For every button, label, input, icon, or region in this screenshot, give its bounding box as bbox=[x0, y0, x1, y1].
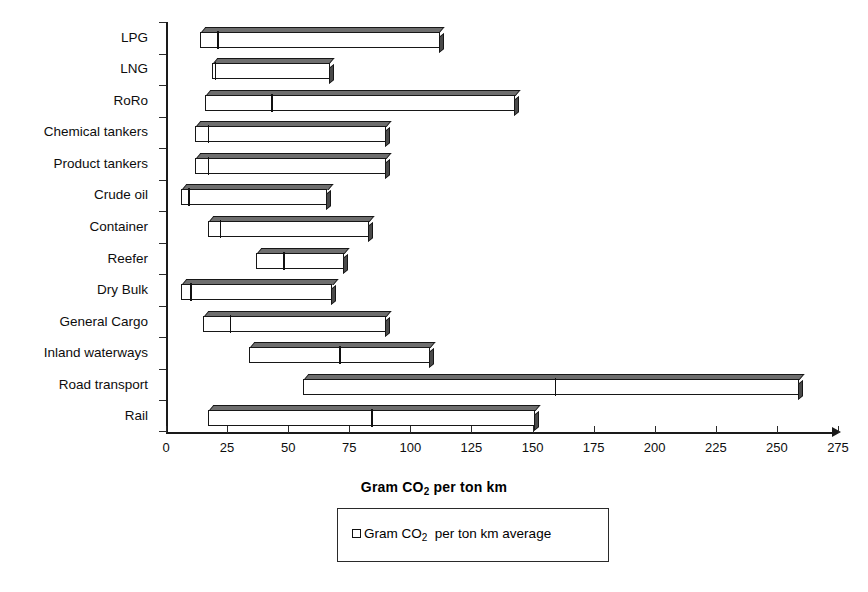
y-axis-tick bbox=[159, 306, 166, 307]
y-axis-tick bbox=[159, 148, 166, 149]
y-axis-category-label: LNG bbox=[120, 61, 148, 76]
range-bar bbox=[181, 279, 333, 301]
x-axis-arrow-icon bbox=[832, 427, 841, 437]
y-axis-tick bbox=[159, 274, 166, 275]
range-bar-average-marker bbox=[283, 252, 285, 270]
x-axis-tick-label: 275 bbox=[818, 440, 858, 455]
legend: Gram CO2 per ton km average bbox=[337, 508, 609, 562]
range-bar-front-face bbox=[200, 32, 439, 48]
range-bar-average-marker bbox=[339, 346, 341, 364]
range-bar-average-marker bbox=[208, 157, 210, 175]
legend-item: Gram CO2 per ton km average bbox=[352, 526, 551, 541]
range-bar-front-face bbox=[303, 379, 799, 395]
range-bar-front-face bbox=[195, 126, 386, 142]
range-bar bbox=[256, 248, 344, 270]
range-bar bbox=[195, 121, 386, 143]
range-bar-average-marker bbox=[230, 315, 232, 333]
x-axis-tick-label: 125 bbox=[451, 440, 491, 455]
range-bar-average-marker bbox=[215, 62, 217, 80]
y-axis-tick bbox=[159, 211, 166, 212]
range-bar-average-marker bbox=[555, 378, 557, 396]
y-axis-category-labels: LPGLNGRoRoChemical tankersProduct tanker… bbox=[0, 22, 156, 432]
range-bar-end-cap bbox=[368, 222, 373, 242]
y-axis-category-label: General Cargo bbox=[59, 314, 148, 329]
range-bar-front-face bbox=[256, 253, 344, 269]
range-bar-end-cap bbox=[343, 253, 348, 273]
y-axis-category-label: Container bbox=[89, 219, 148, 234]
range-bar bbox=[212, 58, 329, 80]
range-bar-average-marker bbox=[217, 31, 219, 49]
y-axis-category-label: LPG bbox=[121, 30, 148, 45]
range-bar-end-cap bbox=[439, 33, 444, 53]
x-axis-tick bbox=[288, 426, 289, 433]
range-bar bbox=[249, 342, 430, 364]
range-bar-average-marker bbox=[190, 283, 192, 301]
range-bar-average-marker bbox=[271, 94, 273, 112]
y-axis-category-label: Reefer bbox=[107, 251, 148, 266]
x-axis-tick-label: 25 bbox=[207, 440, 247, 455]
co2-range-chart: LPGLNGRoRoChemical tankersProduct tanker… bbox=[0, 0, 868, 592]
x-axis-tick bbox=[594, 426, 595, 433]
legend-item-label: Gram CO2 per ton km average bbox=[364, 526, 551, 541]
range-bar-end-cap bbox=[385, 127, 390, 147]
x-axis-line bbox=[166, 432, 836, 434]
y-axis-category-label: Road transport bbox=[59, 377, 148, 392]
y-axis-category-label: Product tankers bbox=[53, 156, 148, 171]
range-bar bbox=[208, 405, 535, 427]
x-axis-tick-label: 200 bbox=[635, 440, 675, 455]
range-bar-front-face bbox=[181, 284, 333, 300]
x-axis-tick-label: 100 bbox=[390, 440, 430, 455]
range-bar-front-face bbox=[208, 221, 369, 237]
y-axis-tick bbox=[159, 369, 166, 370]
range-bar-front-face bbox=[181, 189, 328, 205]
x-axis-tick-label: 175 bbox=[574, 440, 614, 455]
y-axis-tick bbox=[159, 431, 166, 432]
y-axis-tick bbox=[159, 400, 166, 401]
x-axis-tick-label: 150 bbox=[513, 440, 553, 455]
range-bar-front-face bbox=[195, 158, 386, 174]
x-axis-tick bbox=[655, 426, 656, 433]
x-axis-title: Gram CO2 per ton km bbox=[0, 479, 868, 495]
y-axis-tick bbox=[159, 117, 166, 118]
x-axis-tick bbox=[471, 426, 472, 433]
range-bar bbox=[181, 184, 328, 206]
x-axis-tick bbox=[227, 426, 228, 433]
range-bar-end-cap bbox=[429, 348, 434, 368]
y-axis-tick bbox=[159, 180, 166, 181]
range-bar bbox=[208, 216, 369, 238]
range-bar bbox=[205, 90, 515, 112]
y-axis-tick bbox=[159, 243, 166, 244]
range-bar-end-cap bbox=[326, 190, 331, 210]
x-axis-tick-label: 75 bbox=[329, 440, 369, 455]
range-bar bbox=[203, 311, 386, 333]
y-axis-tick bbox=[159, 22, 166, 23]
range-bar-end-cap bbox=[329, 64, 334, 84]
y-axis-category-label: Crude oil bbox=[94, 187, 148, 202]
range-bar-average-marker bbox=[188, 188, 190, 206]
x-axis-tick-label: 50 bbox=[268, 440, 308, 455]
x-axis-tick-label: 250 bbox=[757, 440, 797, 455]
x-axis-tick bbox=[777, 426, 778, 433]
range-bar-end-cap bbox=[331, 285, 336, 305]
y-axis-tick bbox=[159, 54, 166, 55]
range-bar-end-cap bbox=[514, 96, 519, 116]
x-axis-tick bbox=[410, 426, 411, 433]
open-square-marker-icon bbox=[352, 529, 361, 538]
y-axis-category-label: Chemical tankers bbox=[44, 124, 148, 139]
y-axis-tick bbox=[159, 337, 166, 338]
range-bar-average-marker bbox=[208, 125, 210, 143]
x-axis-tick bbox=[716, 426, 717, 433]
x-axis-tick bbox=[533, 426, 534, 433]
range-bar-end-cap bbox=[534, 411, 539, 431]
range-bar-end-cap bbox=[798, 380, 803, 400]
range-bar-end-cap bbox=[385, 317, 390, 337]
x-axis-tick bbox=[838, 426, 839, 433]
y-axis-category-label: Inland waterways bbox=[44, 345, 148, 360]
range-bar bbox=[195, 153, 386, 175]
x-axis-tick-label: 225 bbox=[696, 440, 736, 455]
range-bar-front-face bbox=[205, 95, 515, 111]
y-axis-line bbox=[166, 22, 168, 432]
plot-area bbox=[166, 22, 838, 432]
y-axis-category-label: Dry Bulk bbox=[97, 282, 148, 297]
range-bar-average-marker bbox=[371, 409, 373, 427]
